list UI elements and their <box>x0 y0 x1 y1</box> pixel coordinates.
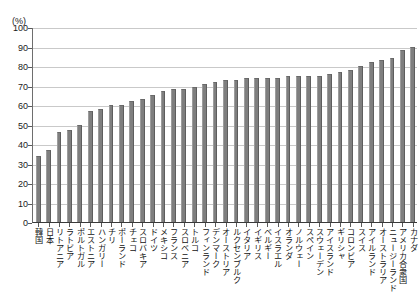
x-axis-tick-mark <box>350 223 351 227</box>
x-axis-tick-mark <box>69 223 70 227</box>
y-axis-tick-label: 80 <box>2 62 28 72</box>
bar <box>88 111 93 222</box>
bar <box>192 87 197 222</box>
x-axis-tick-mark <box>298 223 299 227</box>
y-axis-tick-label: 60 <box>2 101 28 111</box>
x-axis-category-label: エストニア <box>85 228 94 268</box>
x-axis-category-label: ギリシャ <box>334 228 343 260</box>
x-axis-tick-mark <box>59 223 60 227</box>
y-axis-tick-label: 10 <box>2 199 28 209</box>
bar <box>223 80 228 222</box>
x-axis-tick-mark <box>90 223 91 227</box>
x-axis-tick-mark <box>184 223 185 227</box>
x-axis-tick-mark <box>319 223 320 227</box>
x-axis-category-label: ポーランド <box>116 228 125 268</box>
bar <box>275 78 280 222</box>
x-axis-tick-mark <box>330 223 331 227</box>
bar <box>161 91 166 222</box>
bar <box>317 76 322 222</box>
x-axis-category-label: デンマーク <box>209 228 218 268</box>
x-axis-tick-mark <box>361 223 362 227</box>
bar <box>296 76 301 222</box>
bar <box>254 78 259 222</box>
y-axis-tick-mark <box>28 165 32 166</box>
x-axis-tick-mark <box>278 223 279 227</box>
x-axis-category-labels: 韓国日本リトアニアラトビアポルトガルエストニアハンガリーチリポーランドチェコスロ… <box>32 228 417 306</box>
x-axis-tick-mark <box>132 223 133 227</box>
x-axis-category-label: 日本 <box>43 228 52 244</box>
x-axis-category-label: トルコ <box>189 228 198 252</box>
y-axis-tick-mark <box>28 67 32 68</box>
y-axis-tick-mark <box>28 106 32 107</box>
bar <box>36 156 41 222</box>
x-axis-tick-mark <box>267 223 268 227</box>
bar <box>358 66 363 222</box>
y-axis-tick-mark <box>28 87 32 88</box>
x-axis-category-label: スロバキア <box>137 228 146 268</box>
x-axis-category-label: カナダ <box>407 228 416 252</box>
y-axis-tick-label: 30 <box>2 160 28 170</box>
bar <box>306 76 311 222</box>
x-axis-category-label: イスラエル <box>272 228 281 268</box>
x-axis-category-label: オーストラリア <box>376 228 385 284</box>
x-axis-category-label: アメリカ合衆国 <box>397 228 406 284</box>
bar <box>171 89 176 222</box>
x-axis-tick-mark <box>163 223 164 227</box>
x-axis-tick-mark <box>80 223 81 227</box>
x-axis-category-label: リトアニア <box>53 228 62 268</box>
x-axis-tick-mark <box>288 223 289 227</box>
x-axis-category-label: フランス <box>168 228 177 260</box>
x-axis-category-label: スイス <box>355 228 364 252</box>
x-axis-tick-mark <box>111 223 112 227</box>
y-axis-tick-label: 0 <box>2 218 28 228</box>
x-axis-category-label: チェコ <box>126 228 135 252</box>
x-axis-category-label: イタリア <box>241 228 250 260</box>
x-axis-category-label: ドイツ <box>147 228 156 252</box>
chart-page: (%) 0102030405060708090100 韓国日本リトアニアラトビア… <box>0 0 419 308</box>
bar <box>77 125 82 223</box>
bar <box>348 70 353 222</box>
x-axis-category-label: オランダ <box>282 228 291 260</box>
x-axis-tick-mark <box>257 223 258 227</box>
bar <box>379 60 384 222</box>
y-axis-tick-mark <box>28 28 32 29</box>
bar <box>338 72 343 222</box>
x-axis-tick-mark <box>49 223 50 227</box>
x-axis-category-label: コロンビア <box>345 228 354 268</box>
x-axis-category-label: 韓国 <box>33 228 42 244</box>
x-axis-category-label: ラトビア <box>64 228 73 260</box>
x-axis-tick-mark <box>309 223 310 227</box>
x-axis-tick-mark <box>226 223 227 227</box>
x-axis-category-label: ベルギー <box>262 228 271 260</box>
x-axis-category-label: ニュージーランド <box>386 228 395 292</box>
bar <box>181 89 186 222</box>
bar <box>369 62 374 222</box>
bar <box>327 74 332 222</box>
bar <box>265 78 270 222</box>
bar <box>390 58 395 222</box>
x-axis-tick-mark <box>246 223 247 227</box>
x-axis-tick-mark <box>413 223 414 227</box>
bar <box>98 109 103 222</box>
x-axis-tick-mark <box>371 223 372 227</box>
bar <box>244 78 249 222</box>
y-axis-tick-label: 40 <box>2 140 28 150</box>
x-axis-category-label: フィンランド <box>199 228 208 276</box>
y-axis-tick-label: 70 <box>2 82 28 92</box>
x-axis-tick-mark <box>205 223 206 227</box>
x-axis-tick-mark <box>236 223 237 227</box>
x-axis-category-label: アイルランド <box>366 228 375 276</box>
bar <box>67 130 72 222</box>
y-axis-tick-mark <box>28 126 32 127</box>
x-axis-category-label: スウェーデン <box>314 228 323 276</box>
x-axis-tick-mark <box>38 223 39 227</box>
x-axis-category-label: ハンガリー <box>95 228 104 268</box>
bar <box>119 105 124 222</box>
bar <box>109 105 114 222</box>
plot-area <box>32 28 417 223</box>
x-axis-tick-mark <box>194 223 195 227</box>
x-axis-category-label: スロベニア <box>178 228 187 268</box>
bar <box>46 150 51 222</box>
bar <box>234 80 239 222</box>
x-axis-category-label: チリ <box>105 228 114 244</box>
